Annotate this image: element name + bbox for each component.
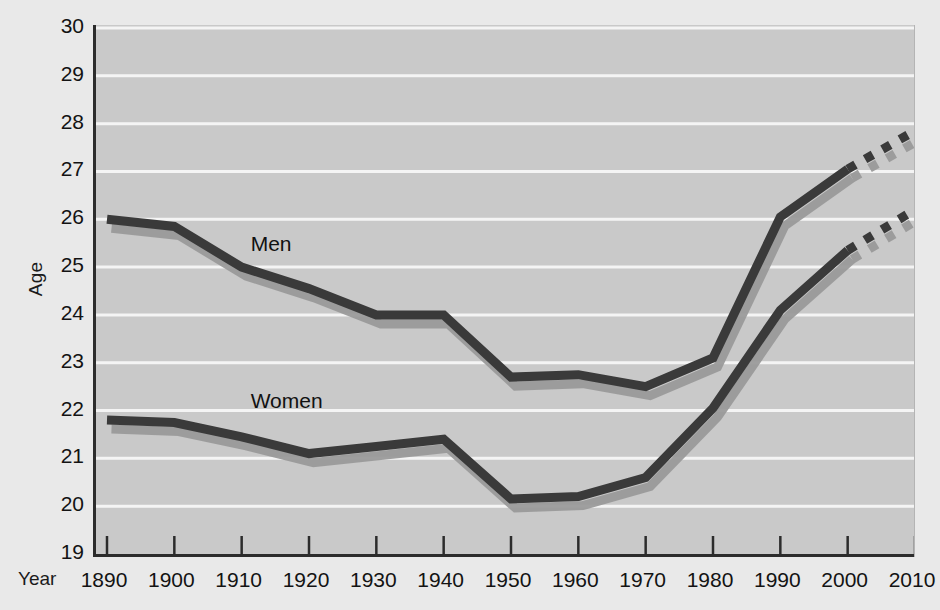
x-tick-1910: 1910 — [207, 568, 271, 592]
x-tick-1980: 1980 — [678, 568, 742, 592]
x-axis-title: Year — [18, 568, 56, 590]
y-tick-26: 26 — [40, 205, 84, 229]
series-lines — [96, 25, 915, 557]
y-tick-22: 22 — [40, 397, 84, 421]
y-tick-27: 27 — [40, 157, 84, 181]
y-tick-19: 19 — [40, 540, 84, 564]
y-tick-25: 25 — [40, 253, 84, 277]
series-label-women: Women — [251, 389, 323, 413]
x-tick-1920: 1920 — [274, 568, 338, 592]
y-tick-23: 23 — [40, 349, 84, 373]
x-tick-1940: 1940 — [409, 568, 473, 592]
x-tick-1990: 1990 — [745, 568, 809, 592]
plot-area — [93, 25, 915, 557]
x-tick-1930: 1930 — [341, 568, 405, 592]
x-tick-1960: 1960 — [543, 568, 607, 592]
x-tick-1970: 1970 — [611, 568, 675, 592]
plot-right-border — [914, 25, 915, 557]
series-line-dashed — [848, 131, 915, 169]
x-tick-2000: 2000 — [813, 568, 877, 592]
x-tick-1900: 1900 — [139, 568, 203, 592]
y-tick-30: 30 — [40, 14, 84, 38]
y-tick-21: 21 — [40, 444, 84, 468]
series-line-solid — [107, 250, 848, 499]
x-tick-2010: 2010 — [880, 568, 940, 592]
series-label-men: Men — [251, 232, 292, 256]
y-tick-29: 29 — [40, 62, 84, 86]
y-tick-24: 24 — [40, 301, 84, 325]
x-tick-1890: 1890 — [72, 568, 136, 592]
y-tick-28: 28 — [40, 110, 84, 134]
y-tick-20: 20 — [40, 492, 84, 516]
x-tick-1950: 1950 — [476, 568, 540, 592]
